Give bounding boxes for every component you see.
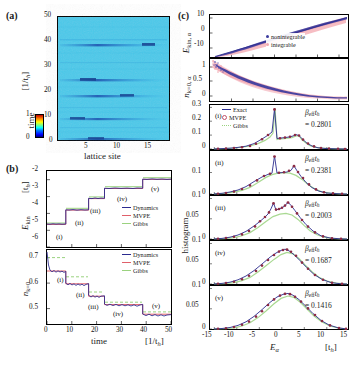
legend-item-nonintegrable: nonintegrable bbox=[266, 33, 305, 41]
legend-label: MVPE bbox=[229, 114, 246, 122]
panel-b-bottom-ylabel: nk=0 bbox=[20, 270, 31, 306]
panel-a-ytick-30: 30 bbox=[44, 62, 51, 69]
hist-iii-ytick-005: 0.05 bbox=[186, 212, 199, 219]
hist-ii-beta-value: = 0.2381 bbox=[305, 167, 332, 175]
hist-iv-beta-label: βeffth bbox=[305, 245, 319, 254]
panel-c-top-ytick-0: 0 bbox=[201, 26, 205, 33]
hist-i-beta-label: βeffth bbox=[305, 109, 319, 118]
svg-text:(iv): (iv) bbox=[113, 310, 124, 318]
hist-iii-ytick-01: 0.1 bbox=[192, 192, 201, 199]
histogram-v-tag: (v) bbox=[215, 294, 224, 302]
histogram-legend: Exact MVPE Gibbs bbox=[222, 106, 248, 129]
panel-c-mid-ytick-0: 0 bbox=[202, 91, 206, 98]
histogram-ii-tag: (ii) bbox=[215, 159, 224, 167]
dot-swatch-icon bbox=[266, 43, 269, 46]
panel-a-ytick-0: 0 bbox=[49, 137, 53, 144]
svg-text:(ii): (ii) bbox=[76, 291, 85, 299]
panel-b-xtick-30: 30 bbox=[116, 327, 123, 334]
panel-c-xunit: [th] bbox=[325, 343, 337, 353]
hist-iv-ytick-0: 0 bbox=[202, 279, 206, 286]
hist-iii-beta-value: = 0.2003 bbox=[305, 212, 332, 220]
legend-item-mvpe: MVPE bbox=[122, 212, 158, 220]
dotted-swatch-icon bbox=[222, 125, 231, 126]
panel-b-xtick-0: 0 bbox=[44, 327, 48, 334]
panel-b-xunit: [1/th] bbox=[145, 337, 164, 347]
panel-c-xtick-5: 5 bbox=[297, 332, 301, 339]
histogram-iii-tag: (iii) bbox=[215, 204, 226, 212]
hist-iv-ytick-01: 0.1 bbox=[192, 237, 201, 244]
svg-text:(iv): (iv) bbox=[117, 195, 128, 203]
panel-b-top-ytick--4: -4 bbox=[32, 200, 38, 207]
svg-text:(iii): (iii) bbox=[88, 303, 99, 311]
panel-c-xtick--15: -15 bbox=[202, 332, 212, 339]
legend-label: MVPE bbox=[133, 259, 150, 267]
hist-i-ytick-01: 0.1 bbox=[192, 129, 201, 136]
panel-b-top-ytick--2: -2 bbox=[32, 166, 38, 173]
legend-label: Gibbs bbox=[133, 220, 148, 228]
svg-text:(i): (i) bbox=[57, 276, 64, 284]
colorbar-max-tick: 1 bbox=[26, 111, 30, 118]
panel-c-mid-ylabel: nk=0, α bbox=[181, 66, 192, 106]
panel-b-top-ytick--3: -3 bbox=[32, 183, 38, 190]
hist-v-ytick-01: 0.1 bbox=[192, 282, 201, 289]
panel-c-mid-plot bbox=[209, 58, 349, 102]
panel-b-bottom-ytick-07: 0.7 bbox=[29, 253, 38, 260]
panel-a-heatmap-canvas bbox=[58, 17, 169, 140]
panel-a-xlabel: lattice site bbox=[84, 152, 121, 161]
hist-ii-ytick-01: 0.1 bbox=[192, 168, 201, 175]
svg-text:(v): (v) bbox=[151, 185, 160, 193]
circle-swatch-icon bbox=[222, 115, 227, 120]
panel-b-top-ytick--5: -5 bbox=[32, 217, 38, 224]
panel-c-mid-ytick-05: 0.5 bbox=[193, 76, 202, 83]
panel-b-xtick-40: 40 bbox=[140, 327, 147, 334]
panel-a-ytick-50: 50 bbox=[44, 12, 51, 19]
legend-label: Dynamics bbox=[133, 204, 158, 212]
panel-a-ytick-20: 20 bbox=[44, 87, 51, 94]
hist-v-beta-value: = 0.1416 bbox=[305, 302, 332, 310]
panel-b-xlabel: time bbox=[91, 337, 107, 346]
panel-a-xtick-10: 10 bbox=[113, 143, 120, 150]
panel-c-top-legend: nonintegrable integrable bbox=[266, 33, 305, 49]
panel-c-top-ylabel: Ekin, α bbox=[181, 22, 192, 62]
panel-c-mid-canvas bbox=[210, 59, 348, 101]
panel-a-tag: (a) bbox=[6, 10, 18, 21]
legend-item-dynamics: Dynamics bbox=[122, 251, 158, 259]
svg-text:(v): (v) bbox=[152, 302, 161, 310]
panel-c-mid-ytick-1: 1 bbox=[202, 62, 206, 69]
hist-i-ytick-0: 0 bbox=[202, 143, 206, 150]
hist-iv-beta-value: = 0.1687 bbox=[305, 257, 332, 265]
svg-text:(i): (i) bbox=[56, 233, 63, 241]
panel-c-top-ytick--10: -10 bbox=[194, 41, 204, 48]
hist-iii-ytick-0: 0 bbox=[202, 234, 206, 241]
colorbar-min-tick: 0 bbox=[26, 134, 30, 141]
panel-b-bottom-ytick-05: 0.5 bbox=[29, 304, 38, 311]
line-swatch-icon bbox=[122, 254, 131, 255]
panel-b-xtick-10: 10 bbox=[66, 327, 73, 334]
panel-c-xlabel: Eα bbox=[270, 343, 279, 353]
legend-item-gibbs: Gibbs bbox=[222, 122, 248, 130]
line-swatch-icon bbox=[122, 270, 131, 271]
colorbar-gradient bbox=[35, 114, 44, 138]
panel-a-ytick-40: 40 bbox=[44, 37, 51, 44]
legend-label: nonintegrable bbox=[271, 33, 305, 41]
line-swatch-icon bbox=[122, 223, 131, 224]
legend-label: Dynamics bbox=[133, 251, 158, 259]
panel-b-bottom-legend: Dynamics MVPE Gibbs bbox=[122, 251, 158, 274]
panel-c-xtick--5: -5 bbox=[249, 332, 255, 339]
legend-label: integrable bbox=[271, 41, 296, 49]
panel-b-ylabel: Ekin bbox=[20, 205, 31, 239]
line-swatch-icon bbox=[122, 207, 131, 208]
hist-i-ytick-03: 0.3 bbox=[192, 101, 201, 108]
legend-item-mvpe: MVPE bbox=[222, 114, 248, 122]
svg-text:(iii): (iii) bbox=[90, 207, 101, 215]
legend-item-exact: Exact bbox=[222, 106, 248, 114]
dot-swatch-icon bbox=[266, 35, 269, 38]
hist-i-beta-value: = 0.2801 bbox=[305, 121, 332, 129]
legend-label: Exact bbox=[233, 106, 247, 114]
panel-c-xtick-10: 10 bbox=[317, 332, 324, 339]
hist-ii-beta-label: βeffth bbox=[305, 155, 319, 164]
line-swatch-icon bbox=[122, 262, 131, 263]
legend-item-mvpe: MVPE bbox=[122, 259, 158, 267]
panel-b-xtick-20: 20 bbox=[91, 327, 98, 334]
svg-text:(ii): (ii) bbox=[75, 219, 84, 227]
